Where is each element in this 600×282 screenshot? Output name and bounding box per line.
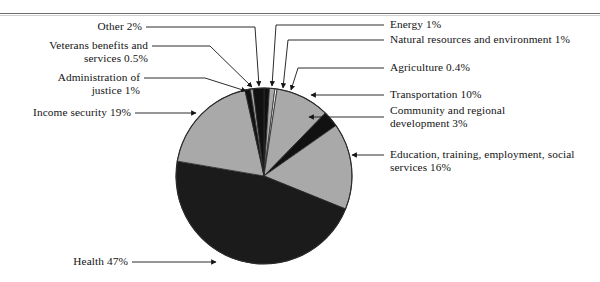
label-administration-of-justice: Administration of justice 1% [0,71,140,97]
pie-slices [176,88,352,264]
label-education-training: Education, training, employment, social … [390,148,595,174]
figure-canvas: Other 2% Veterans benefits and services … [0,0,600,282]
label-community-development: Community and regional development 3% [390,104,595,130]
leader-energy [272,25,384,86]
label-natural-resources: Natural resources and environment 1% [390,33,600,46]
label-agriculture: Agriculture 0.4% [390,61,595,74]
label-veterans: Veterans benefits and services 0.5% [0,39,148,65]
label-health: Health 47% [0,255,128,268]
label-income-security: Income security 19% [0,106,131,119]
leader-veterans [152,46,252,87]
label-transportation: Transportation 10% [390,88,595,101]
label-energy: Energy 1% [390,18,598,31]
leader-agriculture [291,68,384,90]
leader-natural [283,40,384,88]
label-other: Other 2% [0,20,142,33]
leader-justice [144,78,246,91]
